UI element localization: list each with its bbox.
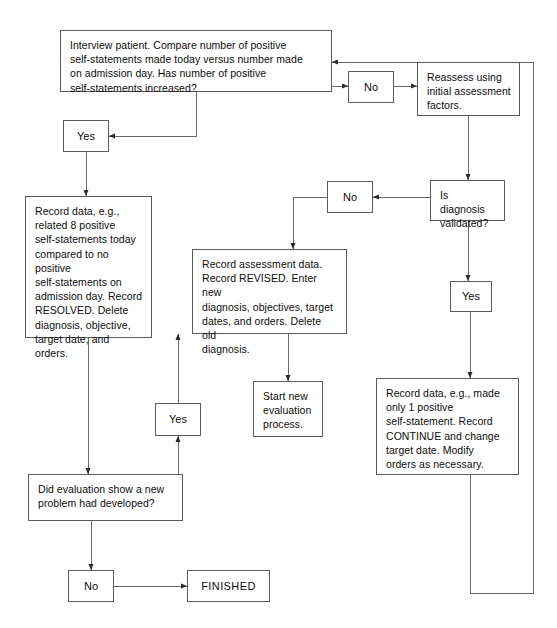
no-label-middle[interactable]: No: [327, 181, 373, 213]
flowchart-canvas: Interview patient. Compare number of pos…: [0, 0, 557, 628]
finished-terminal[interactable]: FINISHED: [187, 570, 270, 602]
start-new-evaluation-box[interactable]: Start new evaluation process.: [253, 381, 323, 437]
yes-label-right[interactable]: Yes: [450, 281, 492, 312]
wire-record-continue-loopback-to-interview: [332, 62, 533, 593]
record-continue-box[interactable]: Record data, e.g., made only 1 positive …: [376, 378, 519, 475]
no-label-top[interactable]: No: [348, 71, 394, 103]
record-assessment-revised-box[interactable]: Record assessment data. Record REVISED. …: [192, 249, 347, 334]
interview-patient-box[interactable]: Interview patient. Compare number of pos…: [60, 30, 332, 92]
yes-label-bottom-left[interactable]: Yes: [155, 403, 201, 436]
did-evaluation-show-new-problem-box[interactable]: Did evaluation show a new problem had de…: [28, 474, 183, 521]
record-resolved-box[interactable]: Record data, e.g., related 8 positive se…: [25, 196, 152, 338]
yes-label-top-left[interactable]: Yes: [63, 120, 109, 152]
wire-no-mid-to-record-revised: [293, 197, 327, 249]
wire-interview-to-yes-top-left: [109, 92, 196, 136]
is-diagnosis-validated-box[interactable]: Is diagnosis validated?: [430, 180, 505, 221]
reassess-box[interactable]: Reassess using initial assessment factor…: [417, 62, 520, 116]
no-label-bottom[interactable]: No: [68, 570, 114, 602]
